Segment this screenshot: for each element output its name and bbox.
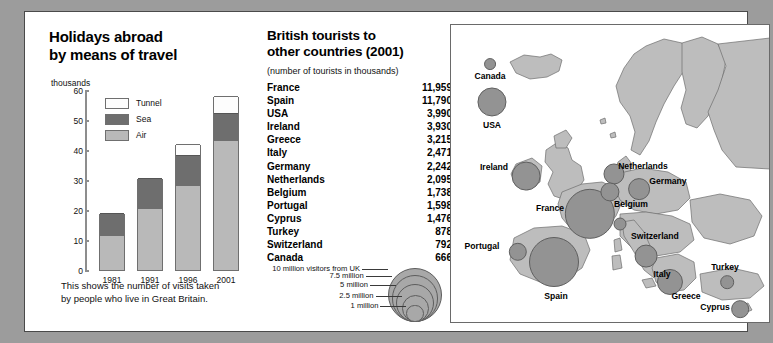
- legend-swatch-sea: [105, 114, 129, 125]
- bar-segment-air-1981: [100, 236, 124, 270]
- table-cell-country: Spain: [267, 94, 294, 107]
- y-tick-label: 0: [63, 266, 83, 276]
- y-tick-label: 40: [63, 146, 83, 156]
- table-cell-country: Cyprus: [267, 212, 301, 225]
- table-row: Spain11,790: [267, 94, 452, 107]
- legend-label-air: Air: [136, 130, 146, 140]
- legend-label-tunnel: Tunnel: [136, 98, 162, 108]
- chart-title: Holidays abroad by means of travel: [49, 28, 264, 65]
- table-cell-value: 11,959: [422, 81, 452, 94]
- table-cell-country: Greece: [267, 133, 301, 146]
- y-tick-mark: [85, 240, 89, 241]
- table-cell-country: USA: [267, 107, 288, 120]
- table-row: Switzerland792: [267, 238, 452, 251]
- page-root: Holidays abroad by means of travel thous…: [0, 0, 773, 343]
- bar-1981: [99, 214, 125, 271]
- legend-leader-line: [380, 306, 406, 307]
- bar-chart-block: Holidays abroad by means of travel thous…: [49, 28, 264, 318]
- table-cell-value: 11,790: [422, 94, 452, 107]
- table-cell-value: 2,242: [427, 160, 452, 173]
- table-cell-value: 3,215: [427, 133, 452, 146]
- bar-segment-air-1996: [176, 186, 200, 270]
- y-tick-mark: [85, 210, 89, 211]
- table-cell-country: Belgium: [267, 186, 306, 199]
- y-tick-mark: [85, 120, 89, 121]
- table-row: Canada666: [267, 251, 452, 264]
- bar-segment-tunnel-2001: [214, 96, 238, 113]
- table-cell-value: 3,990: [427, 107, 452, 120]
- table-cell-value: 1,476: [427, 212, 452, 225]
- table-cell-value: 3,930: [427, 120, 452, 133]
- table-row: Germany2,242: [267, 160, 452, 173]
- bar-segment-air-2001: [214, 141, 238, 270]
- table-row: France11,959: [267, 81, 452, 94]
- content-panel: Holidays abroad by means of travel thous…: [24, 11, 748, 332]
- bar-segment-sea-2001: [214, 113, 238, 142]
- table-cell-country: Italy: [267, 146, 287, 159]
- legend-leader-line: [362, 269, 388, 270]
- legend-leader-line: [376, 296, 402, 297]
- chart-caption-line2: by people who live in Great Britain.: [61, 293, 266, 306]
- bar-segment-tunnel-1996: [176, 144, 200, 154]
- table-cell-value: 1,738: [427, 186, 452, 199]
- legend-item-sea: Sea: [105, 112, 162, 126]
- table-row: Turkey878: [267, 225, 452, 238]
- table-cell-country: Canada: [267, 251, 303, 264]
- table-body: France11,959Spain11,790USA3,990Ireland3,…: [267, 81, 452, 264]
- y-tick-mark: [85, 180, 89, 181]
- y-tick-label: 50: [63, 116, 83, 126]
- chart-legend: TunnelSeaAir: [105, 96, 162, 144]
- chart-caption-line1: This shows the number of visits taken: [61, 280, 266, 293]
- y-tick-mark: [85, 270, 89, 271]
- table-cell-country: Ireland: [267, 120, 300, 133]
- table-row: Ireland3,930: [267, 120, 452, 133]
- table-cell-country: Switzerland: [267, 238, 323, 251]
- table-cell-country: Germany: [267, 160, 310, 173]
- bar-1996: [175, 145, 201, 271]
- legend-label-sea: Sea: [136, 114, 151, 124]
- chart-title-line2: by means of travel: [49, 46, 264, 64]
- y-tick-label: 60: [63, 86, 83, 96]
- table-row: Greece3,215: [267, 133, 452, 146]
- table-title: British tourists to other countries (200…: [267, 28, 452, 61]
- table-cell-country: Turkey: [267, 225, 299, 238]
- bar-segment-air-1991: [138, 209, 162, 270]
- table-row: Belgium1,738: [267, 186, 452, 199]
- y-tick-label: 20: [63, 206, 83, 216]
- tourists-table-block: British tourists to other countries (200…: [267, 28, 452, 264]
- table-row: Netherlands2,095: [267, 173, 452, 186]
- chart-title-line1: Holidays abroad: [49, 28, 264, 46]
- table-title-line2: other countries (2001): [267, 44, 452, 60]
- europe-map: CanadaUSAIrelandFranceSpainPortugalNethe…: [450, 24, 770, 323]
- legend-label-2.5: 2.5 million: [339, 291, 373, 300]
- table-cell-value: 1,598: [427, 199, 452, 212]
- table-subtitle: (number of tourists in thousands): [267, 66, 452, 76]
- bar-segment-sea-1981: [100, 213, 124, 236]
- table-cell-value: 2,471: [427, 146, 452, 159]
- bar-segment-sea-1996: [176, 155, 200, 187]
- table-cell-country: Portugal: [267, 199, 308, 212]
- y-tick-mark: [85, 150, 89, 151]
- legend-circle-1: [406, 305, 423, 322]
- chart-caption: This shows the number of visits taken by…: [61, 280, 266, 306]
- table-cell-country: Netherlands: [267, 173, 325, 186]
- bar-2001: [213, 97, 239, 271]
- legend-item-tunnel: Tunnel: [105, 96, 162, 110]
- table-row: Portugal1,598: [267, 199, 452, 212]
- table-row: Cyprus1,476: [267, 212, 452, 225]
- legend-leader-line: [366, 276, 392, 277]
- legend-label-5: 5 million: [340, 280, 368, 289]
- legend-leader-line: [370, 285, 396, 286]
- legend-item-air: Air: [105, 128, 162, 142]
- y-tick-label: 10: [63, 236, 83, 246]
- bar-1991: [137, 179, 163, 271]
- legend-swatch-tunnel: [105, 98, 129, 109]
- bar-segment-sea-1991: [138, 178, 162, 209]
- table-row: Italy2,471: [267, 146, 452, 159]
- map-border: [450, 24, 770, 323]
- table-title-line1: British tourists to: [267, 28, 452, 44]
- table-row: USA3,990: [267, 107, 452, 120]
- legend-swatch-air: [105, 130, 129, 141]
- legend-label-1: 1 million: [351, 301, 379, 310]
- y-tick-label: 30: [63, 176, 83, 186]
